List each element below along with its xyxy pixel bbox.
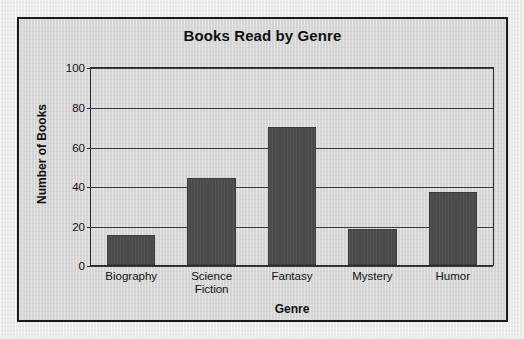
- ytick-label-100: 100: [66, 62, 85, 74]
- chart-title: Books Read by Genre: [19, 27, 506, 44]
- bar-slot-humor: Humor: [413, 68, 493, 265]
- bar-humor[interactable]: [429, 192, 477, 265]
- bar-biography[interactable]: [107, 235, 155, 265]
- xtick-label-humor-line1: Humor: [413, 270, 493, 283]
- bar-slot-science-fiction: Science Fiction: [171, 68, 251, 265]
- xtick-label-fantasy: Fantasy: [252, 270, 332, 283]
- ytick-label-60: 60: [72, 142, 85, 154]
- xtick-label-science-fiction-line2: Fiction: [171, 283, 251, 296]
- bars-layer: Biography Science Fiction Fantasy: [91, 68, 493, 265]
- xtick-label-humor: Humor: [413, 270, 493, 283]
- y-axis-title: Number of Books: [35, 84, 49, 224]
- ytick-label-0: 0: [79, 260, 85, 272]
- xtick-label-science-fiction-line1: Science: [171, 270, 251, 283]
- xtick-label-science-fiction: Science Fiction: [171, 270, 251, 296]
- ytick-label-40: 40: [72, 181, 85, 193]
- gridline-0: 0: [91, 266, 493, 267]
- xtick-label-mystery-line1: Mystery: [332, 270, 412, 283]
- bar-slot-fantasy: Fantasy: [252, 68, 332, 265]
- ytick-mark-0: [87, 266, 91, 267]
- x-axis-title: Genre: [90, 302, 494, 316]
- xtick-label-biography: Biography: [91, 270, 171, 283]
- bar-science-fiction[interactable]: [187, 178, 235, 265]
- bar-fantasy[interactable]: [268, 127, 316, 265]
- bar-mystery[interactable]: [348, 229, 396, 265]
- ytick-label-80: 80: [72, 102, 85, 114]
- xtick-label-mystery: Mystery: [332, 270, 412, 283]
- xtick-label-fantasy-line1: Fantasy: [252, 270, 332, 283]
- chart-panel: Books Read by Genre Number of Books 100 …: [17, 17, 508, 322]
- bar-slot-biography: Biography: [91, 68, 171, 265]
- bar-slot-mystery: Mystery: [332, 68, 412, 265]
- plot-area: 100 80 60 40 20 0 Biography: [90, 67, 494, 266]
- ytick-label-20: 20: [72, 221, 85, 233]
- xtick-label-biography-line1: Biography: [91, 270, 171, 283]
